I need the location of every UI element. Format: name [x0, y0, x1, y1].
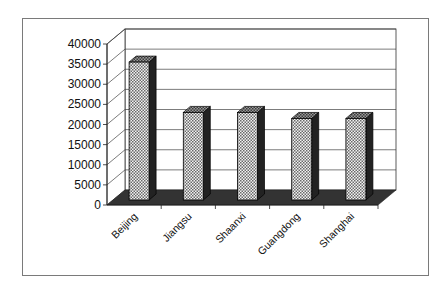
x-category-label: Beijing [109, 210, 140, 241]
bar-jiangsu [183, 106, 210, 200]
y-tick-label: 20000 [68, 118, 102, 132]
x-category-label: Shaanxi [213, 210, 248, 245]
bar-shanghai [346, 112, 373, 200]
y-tick-label: 5000 [74, 178, 101, 192]
y-tick-label: 35000 [68, 57, 102, 71]
x-category-label: Jiangsu [160, 210, 194, 244]
y-tick-label: 15000 [68, 138, 102, 152]
bar-shaanxi [238, 106, 265, 200]
y-tick-label: 30000 [68, 77, 102, 91]
bar-beijing [129, 56, 156, 200]
y-tick-label: 40000 [68, 37, 102, 51]
bar-guangdong [292, 112, 319, 200]
y-tick-label: 10000 [68, 158, 102, 172]
x-category-label: Guangdong [255, 210, 302, 257]
y-tick-label: 0 [94, 198, 101, 212]
y-tick-label: 25000 [68, 97, 102, 111]
bar-chart: 0500010000150002000025000300003500040000… [0, 0, 445, 292]
x-category-label: Shanghai [316, 210, 356, 250]
